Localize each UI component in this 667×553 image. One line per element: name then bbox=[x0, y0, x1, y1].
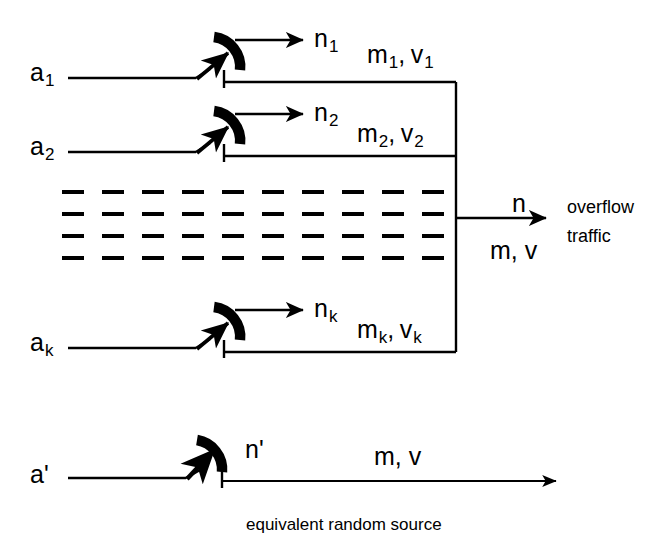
equivalent-moments-label: m, v bbox=[374, 444, 421, 469]
moments-label-2: m2,v2 bbox=[357, 121, 424, 146]
equivalent-input-label: a' bbox=[30, 462, 49, 487]
offered-label-2: n2 bbox=[314, 100, 338, 125]
equivalent-offered-label: n' bbox=[245, 437, 264, 462]
diagram-canvas bbox=[0, 0, 667, 553]
traffic-overflow-figure: a1 n1 m1,v1 a2 n2 m2,v2 ak nk mk,vk n m,… bbox=[0, 0, 667, 553]
overflow-count-label: n bbox=[512, 191, 526, 216]
equivalent-switch-arrow bbox=[187, 450, 214, 479]
offered-label-1: n1 bbox=[314, 26, 338, 51]
ellipsis-dash-grid bbox=[62, 192, 444, 258]
input-label-2: a2 bbox=[30, 134, 54, 159]
overflow-moments-label: m, v bbox=[490, 238, 537, 263]
moments-label-k: mk,vk bbox=[357, 317, 422, 342]
input-label-1: a1 bbox=[30, 60, 54, 85]
moments-label-1: m1,v1 bbox=[367, 42, 434, 67]
offered-label-k: nk bbox=[314, 296, 337, 321]
input-label-k: ak bbox=[30, 330, 53, 355]
equivalent-source-group bbox=[68, 440, 556, 488]
overflow-description-line1: overflow bbox=[567, 198, 634, 216]
figure-caption: equivalent random source bbox=[246, 516, 442, 533]
overflow-description-line2: traffic bbox=[567, 227, 611, 245]
